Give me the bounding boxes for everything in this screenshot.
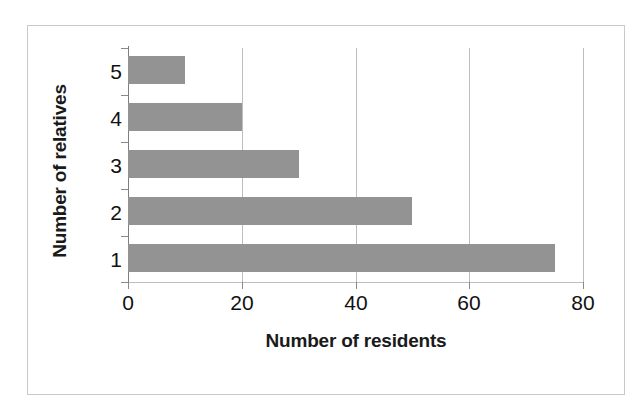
- x-axis-tick-mark-80: [583, 282, 584, 289]
- x-axis-title: Number of residents: [128, 330, 584, 352]
- y-tick-label-5: 5: [94, 61, 122, 82]
- bar-relatives-2: [128, 197, 412, 225]
- gridline-80: [583, 48, 584, 282]
- y-tick-label-2: 2: [94, 202, 122, 223]
- x-tick-label-60: 60: [439, 291, 499, 314]
- x-tick-label-40: 40: [326, 291, 386, 314]
- bar-relatives-5: [128, 56, 185, 84]
- x-tick-label-80: 80: [553, 291, 613, 314]
- y-tick-label-4: 4: [94, 108, 122, 129]
- bar-relatives-4: [128, 103, 242, 131]
- x-tick-label-0: 0: [98, 291, 158, 314]
- x-axis-tick-mark-60: [469, 282, 470, 289]
- x-tick-label-20: 20: [212, 291, 272, 314]
- y-axis-title: Number of relatives: [49, 51, 71, 291]
- y-tick-label-1: 1: [94, 249, 122, 270]
- x-axis-tick-mark-40: [356, 282, 357, 289]
- plot-area: [128, 48, 583, 282]
- bar-chart-figure: Number of relatives 5 4 3 2 1 0 20 40 60…: [0, 0, 640, 406]
- y-tick-label-3: 3: [94, 155, 122, 176]
- y-axis-tick-labels: 5 4 3 2 1: [88, 48, 122, 282]
- bar-relatives-3: [128, 150, 299, 178]
- x-axis-tick-mark-20: [242, 282, 243, 289]
- x-axis-tick-mark-0: [128, 282, 129, 289]
- bar-relatives-1: [128, 244, 555, 272]
